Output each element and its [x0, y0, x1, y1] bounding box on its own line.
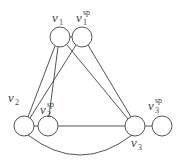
svg-text:sp: sp: [47, 100, 54, 109]
svg-text:sp: sp: [83, 8, 90, 17]
edge-v2-v3-arc: [28, 135, 132, 155]
svg-text:2: 2: [15, 98, 19, 107]
edge-v1sp-v3: [88, 45, 131, 117]
node-v3: [125, 116, 145, 136]
svg-text:1: 1: [83, 18, 87, 27]
label-v1: v 1: [52, 10, 63, 27]
node-v2sp: [38, 116, 58, 136]
svg-text:v: v: [76, 10, 82, 25]
svg-text:v: v: [148, 98, 154, 113]
edge-v1-v3: [67, 45, 128, 119]
svg-text:v: v: [40, 102, 46, 117]
svg-text:1: 1: [59, 18, 63, 27]
svg-text:v: v: [52, 10, 58, 25]
svg-text:v: v: [8, 90, 14, 105]
svg-text:3: 3: [155, 106, 159, 115]
node-v1: [50, 27, 70, 47]
label-v3sp: v 3 sp: [148, 96, 162, 115]
label-v1sp: v 1 sp: [76, 8, 90, 27]
svg-text:2: 2: [47, 110, 51, 119]
svg-text:3: 3: [138, 143, 142, 152]
label-v3: v 3: [131, 135, 142, 152]
svg-text:sp: sp: [155, 96, 162, 105]
svg-text:v: v: [131, 135, 137, 150]
graph-diagram: v 1 v 1 sp v 2 v 2 sp v 3 v 3 sp: [0, 0, 183, 167]
node-v1sp: [72, 27, 92, 47]
label-v2sp: v 2 sp: [40, 100, 54, 119]
label-v2: v 2: [8, 90, 19, 107]
node-v2: [14, 116, 34, 136]
node-v3sp: [152, 116, 172, 136]
